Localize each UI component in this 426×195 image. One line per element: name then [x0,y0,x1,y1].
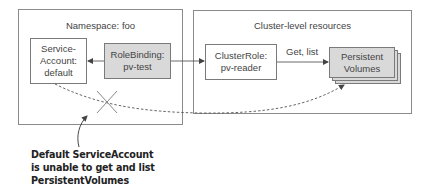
denied-cross-icon [97,91,117,113]
annotation-text: Default ServiceAccount is unable to get … [31,148,155,187]
annotation-callout-arrow [78,116,87,147]
denied-access-dashed-arrow [55,84,344,113]
rbac-diagram: Namespace: foo Cluster-level resources S… [0,0,426,195]
annotation-line2: is unable to get and list [31,161,155,174]
annotation-line1: Default ServiceAccount [31,148,155,161]
annotation-line3: PersistentVolumes [31,174,155,187]
